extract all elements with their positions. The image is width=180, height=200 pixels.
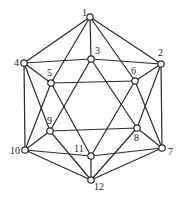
- vertex-label-2: 2: [158, 47, 163, 58]
- vertex-4: [21, 60, 27, 66]
- vertex-label-6: 6: [131, 65, 136, 76]
- vertex-5: [48, 80, 54, 86]
- vertex-label-4: 4: [14, 57, 19, 68]
- vertex-label-12: 12: [94, 181, 104, 192]
- vertex-1: [87, 14, 93, 20]
- vertex-label-1: 1: [82, 7, 87, 18]
- edge-1-5: [51, 17, 90, 83]
- vertex-label-10: 10: [10, 145, 20, 156]
- edge-8-9: [50, 128, 137, 131]
- vertex-3: [88, 56, 94, 62]
- edge-2-3: [91, 59, 161, 64]
- vertex-label-11: 11: [74, 143, 84, 154]
- edge-2-7: [161, 64, 162, 148]
- edge-7-12: [91, 148, 162, 180]
- vertex-8: [134, 125, 140, 131]
- vertex-label-5: 5: [47, 67, 52, 78]
- vertex-label-8: 8: [134, 132, 139, 143]
- vertex-2: [158, 61, 164, 67]
- vertex-7: [159, 145, 165, 151]
- edge-2-6: [135, 64, 161, 81]
- vertex-9: [47, 128, 53, 134]
- vertex-6: [132, 78, 138, 84]
- icosahedron-diagram: 123456789101112: [0, 0, 180, 200]
- edge-5-6: [51, 81, 135, 83]
- vertex-label-3: 3: [95, 45, 100, 56]
- edge-4-10: [24, 63, 25, 150]
- edge-8-12: [91, 128, 137, 180]
- edge-1-3: [90, 17, 91, 59]
- vertex-10: [22, 147, 28, 153]
- vertex-label-7: 7: [168, 146, 173, 157]
- vertex-11: [88, 153, 94, 159]
- vertex-label-9: 9: [47, 115, 52, 126]
- edge-3-4: [24, 59, 91, 63]
- edge-7-11: [91, 148, 162, 156]
- edge-1-4: [24, 17, 90, 63]
- edge-1-2: [90, 17, 161, 64]
- edge-3-9: [50, 59, 91, 131]
